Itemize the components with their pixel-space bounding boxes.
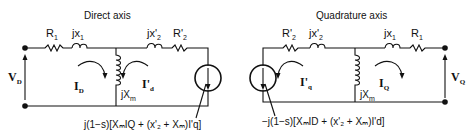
label-iq-rotor: I'q	[300, 76, 312, 91]
label-jxm: jXm	[121, 90, 136, 102]
current-arrow-icon	[103, 73, 108, 79]
quadrature-source-expression: −j(1−s)[XₘID + (x'₂ + Xₘ)I'd]	[262, 117, 385, 127]
label-id: ID	[74, 80, 84, 95]
label-jx1: jx1	[72, 28, 84, 41]
label-jx2-q: jx'2	[309, 28, 323, 41]
source-arrow-icon	[206, 84, 211, 90]
voltage-arrow-icon	[23, 54, 28, 60]
current-arrow-icon	[400, 73, 405, 79]
label-iq: IQ	[379, 77, 389, 92]
direct-source-expression: j(1−s)[XₘIQ + (x'₂ + Xₘ)I'q]	[84, 120, 201, 130]
terminal-dot	[22, 45, 28, 51]
label-jxm-q: jXm	[360, 90, 375, 102]
quadrature-axis-title: Quadrature axis	[316, 11, 387, 21]
terminal-dot	[442, 45, 448, 51]
label-r2: R'2	[173, 28, 187, 41]
current-arrow-icon	[121, 73, 126, 79]
direct-axis-circuit	[25, 44, 221, 119]
circuit-diagram	[0, 0, 470, 140]
quadrature-axis-circuit	[250, 44, 445, 117]
voltage-arrow-icon	[443, 54, 448, 60]
label-jx2: jx'2	[147, 28, 161, 41]
label-id-rotor: I'd	[142, 78, 154, 93]
label-r2-q: R'2	[282, 28, 296, 41]
terminal-dot	[22, 103, 28, 109]
label-r1: R1	[46, 28, 58, 41]
direct-axis-title: Direct axis	[84, 11, 131, 21]
label-vq: VQ	[451, 71, 465, 86]
label-r1-q: R1	[411, 28, 423, 41]
terminal-dot	[442, 99, 448, 105]
label-vd: VD	[8, 71, 22, 86]
source-arrow-icon	[261, 84, 266, 90]
label-jx1-q: jx1	[384, 28, 396, 41]
